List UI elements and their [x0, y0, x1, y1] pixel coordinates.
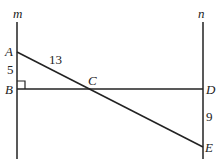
point-e-label: E: [204, 140, 213, 155]
label-n: n: [198, 6, 205, 21]
point-a-label: A: [4, 44, 13, 59]
point-c-label: C: [88, 73, 97, 88]
segment-ae: [17, 52, 203, 147]
measure-de: 9: [206, 109, 213, 124]
right-angle-marker: [17, 81, 25, 89]
geometry-diagram: m n A B C D E 5 13 9: [0, 0, 219, 162]
point-b-label: B: [5, 82, 13, 97]
measure-ac: 13: [49, 52, 62, 67]
measure-ab: 5: [7, 62, 14, 77]
point-d-label: D: [205, 82, 216, 97]
label-m: m: [13, 6, 22, 21]
